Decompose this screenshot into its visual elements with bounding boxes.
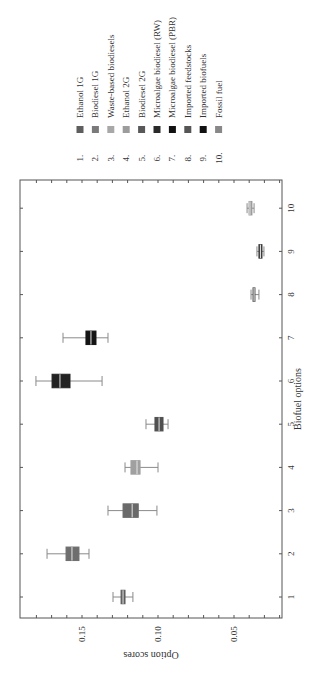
- box-9: [257, 245, 264, 259]
- box-6: [36, 374, 102, 388]
- legend-swatch: [92, 126, 99, 133]
- legend-swatch: [215, 126, 222, 133]
- category-tick-label: 8: [286, 292, 296, 297]
- legend-swatch: [169, 126, 176, 133]
- legend-item: 4.Ethanol 2G: [121, 76, 131, 161]
- box-4: [125, 461, 158, 475]
- legend-swatch: [107, 126, 114, 133]
- value-axis: 0.050.100.15: [36, 180, 279, 642]
- box-2: [47, 547, 89, 561]
- legend-label: Microalgae biodiesel (RW): [152, 20, 162, 118]
- legend-item: 1.Ethanol 1G: [75, 76, 85, 161]
- category-axis: 12345678910: [20, 203, 296, 599]
- legend-swatch: [200, 126, 207, 133]
- box-series: [36, 201, 264, 603]
- plot-frame: [20, 180, 282, 618]
- legend-item: 9.Imported biofuels: [198, 53, 208, 161]
- legend-label: Biodiesel 1G: [90, 70, 100, 118]
- legend-label: Ethanol 2G: [121, 76, 131, 118]
- x-axis-title: Biofuel options: [292, 368, 303, 430]
- value-tick-label: 0.10: [153, 626, 163, 642]
- legend-item: 7.Microalgae biodiesel (PBR): [167, 17, 177, 161]
- value-tick-label: 0.05: [229, 626, 239, 642]
- legend-swatch: [138, 126, 145, 133]
- category-tick-label: 7: [286, 335, 296, 340]
- legend-label: Imported biofuels: [198, 53, 208, 118]
- category-tick-label: 10: [286, 203, 296, 213]
- category-tick-label: 3: [286, 508, 296, 513]
- legend-number: 2.: [90, 155, 100, 162]
- legend-swatch: [184, 126, 191, 133]
- box-3: [108, 504, 157, 517]
- legend-number: 1.: [75, 155, 85, 162]
- category-tick-label: 9: [286, 249, 296, 254]
- legend-number: 5.: [137, 155, 147, 162]
- box-plot-chart: 0.050.100.15 12345678910 1.Ethanol 1G2.B…: [0, 0, 316, 685]
- legend-swatch: [154, 126, 161, 133]
- box-8: [251, 288, 259, 302]
- legend-item: 5.Biodiesel 2G: [137, 70, 147, 161]
- legend-item: 6.Microalgae biodiesel (RW): [152, 20, 162, 161]
- box-5: [146, 417, 168, 431]
- legend-label: Biodiesel 2G: [137, 70, 147, 118]
- category-tick-label: 4: [286, 465, 296, 470]
- category-tick-label: 2: [286, 552, 296, 557]
- legend-number: 9.: [198, 155, 208, 162]
- legend-swatch: [77, 126, 84, 133]
- legend-number: 7.: [167, 155, 177, 162]
- legend-number: 6.: [152, 155, 162, 162]
- y-axis-title: Option scores: [123, 650, 178, 661]
- box-10: [247, 201, 254, 215]
- legend-item: 2.Biodiesel 1G: [90, 70, 100, 161]
- legend-number: 8.: [183, 155, 193, 162]
- legend-label: Imported feedstocks: [183, 44, 193, 118]
- legend-label: Waste-based biodiesels: [106, 34, 116, 118]
- legend-label: Fossil fuel: [214, 80, 224, 118]
- legend: 1.Ethanol 1G2.Biodiesel 1G3.Waste-based …: [75, 17, 224, 164]
- legend-item: 10.Fossil fuel: [214, 80, 224, 164]
- value-tick-label: 0.15: [77, 626, 87, 642]
- legend-number: 4.: [121, 155, 131, 162]
- legend-label: Microalgae biodiesel (PBR): [167, 17, 177, 118]
- legend-label: Ethanol 1G: [75, 76, 85, 118]
- legend-item: 3.Waste-based biodiesels: [106, 34, 116, 161]
- legend-swatch: [123, 126, 130, 133]
- legend-item: 8.Imported feedstocks: [183, 44, 193, 161]
- box-1: [113, 590, 133, 604]
- legend-number: 3.: [106, 155, 116, 162]
- category-tick-label: 1: [286, 595, 296, 600]
- box-7: [63, 331, 108, 345]
- legend-number: 10.: [214, 152, 224, 163]
